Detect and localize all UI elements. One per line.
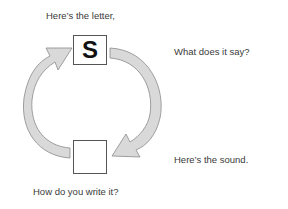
right-top-label: What does it say? <box>174 46 250 57</box>
bottom-label: How do you write it? <box>33 186 119 197</box>
top-label: Here’s the letter, <box>46 10 115 21</box>
letter-box: S <box>73 35 107 65</box>
blank-box <box>73 140 107 174</box>
letter-s: S <box>82 38 98 62</box>
arrow-left-counterclockwise <box>23 48 72 158</box>
cycle-arrows <box>0 0 288 209</box>
arrow-right-clockwise <box>110 48 161 157</box>
right-bottom-label: Here’s the sound. <box>174 154 248 165</box>
